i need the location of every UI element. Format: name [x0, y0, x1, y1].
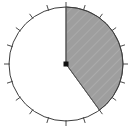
- center-dot-icon: [64, 62, 69, 67]
- pie-chart-figure: [0, 0, 136, 132]
- pie-chart-svg: [0, 0, 136, 132]
